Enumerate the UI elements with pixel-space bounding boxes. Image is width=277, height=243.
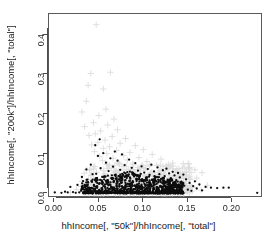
x-tick-label: 0.00 xyxy=(45,203,62,213)
y-axis-title: hhIncome[, "200k"]/hhIncome[, "total"] xyxy=(5,25,16,184)
x-tick-label: 0.20 xyxy=(223,203,240,213)
y-tick-label: 0.2 xyxy=(36,113,46,125)
y-axis-line xyxy=(47,28,48,188)
x-tick-mark xyxy=(187,198,188,202)
scatter-plot-figure: 0.000.050.100.150.20 0.00.10.20.30.4 hhI… xyxy=(0,0,277,243)
x-tick-mark xyxy=(142,198,143,202)
x-tick-mark xyxy=(231,198,232,202)
x-tick-label: 0.15 xyxy=(178,203,195,213)
y-tick-label: 0.0 xyxy=(36,192,46,204)
y-tick-label: 0.1 xyxy=(36,153,46,165)
x-tick-label: 0.10 xyxy=(134,203,151,213)
plot-area-frame xyxy=(48,13,262,197)
x-tick-mark xyxy=(53,198,54,202)
y-tick-label: 0.4 xyxy=(36,34,46,46)
x-tick-mark xyxy=(98,198,99,202)
y-tick-label: 0.3 xyxy=(36,73,46,85)
scatter-points-canvas xyxy=(49,14,263,198)
x-tick-label: 0.05 xyxy=(89,203,106,213)
x-axis-line xyxy=(56,197,231,198)
x-axis-title: hhIncome[, "50k"]/hhIncome[, "total"] xyxy=(0,220,277,231)
